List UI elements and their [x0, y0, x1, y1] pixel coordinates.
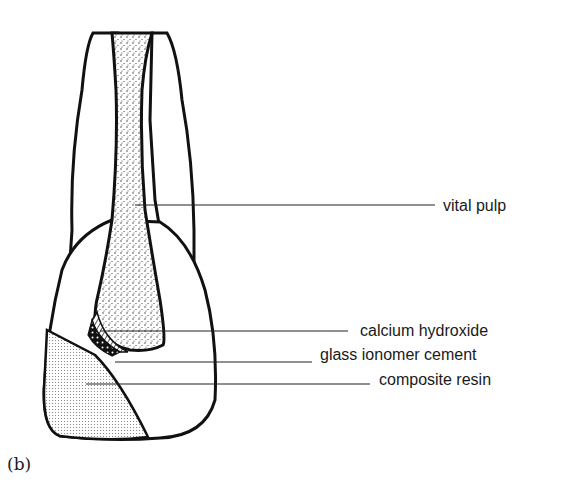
- label-vital-pulp: vital pulp: [443, 198, 506, 214]
- tooth-diagram: [0, 0, 565, 493]
- label-composite-resin: composite resin: [379, 372, 491, 388]
- panel-label: (b): [7, 454, 31, 474]
- label-glass-ionomer-cement: glass ionomer cement: [320, 347, 477, 363]
- label-calcium-hydroxide: calcium hydroxide: [360, 323, 488, 339]
